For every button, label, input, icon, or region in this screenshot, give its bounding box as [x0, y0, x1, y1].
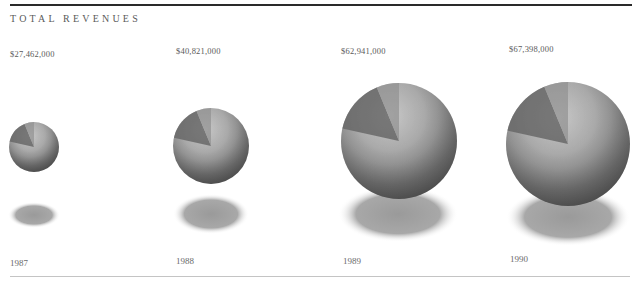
year-label-1989: 1989	[343, 256, 361, 266]
bottom-rule	[10, 276, 630, 277]
pie-1988	[173, 108, 249, 234]
year-label-1988: 1988	[176, 256, 194, 266]
shadow-1987	[8, 202, 60, 228]
shadow-1988	[173, 194, 249, 234]
pie-1989	[338, 83, 458, 242]
sphere-pie-charts	[0, 0, 636, 287]
pie-1990	[506, 82, 630, 246]
year-label-1987: 1987	[10, 258, 28, 268]
pie-1987	[8, 122, 60, 228]
year-label-1990: 1990	[510, 254, 528, 264]
